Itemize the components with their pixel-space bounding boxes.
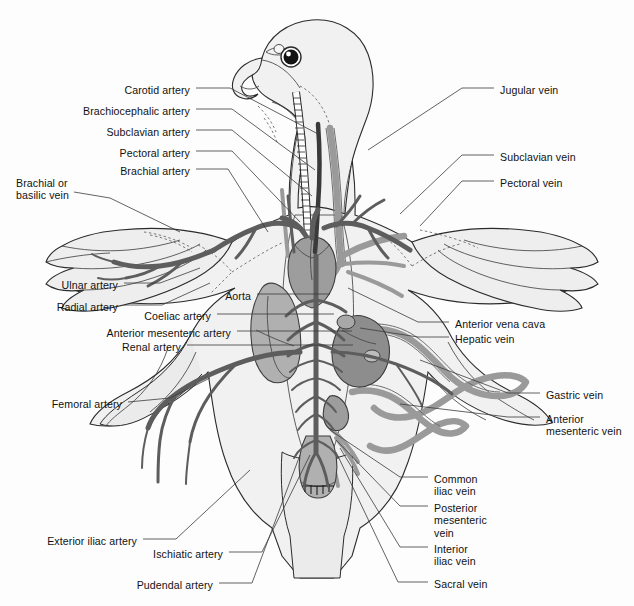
label-pectoral-vein: Pectoral vein [500,177,563,189]
label-aorta: Aorta [225,290,251,302]
label-sacral-vein: Sacral vein [434,578,488,590]
label-coeliac-artery: Coeliac artery [144,310,211,322]
label-pudendal-artery: Pudendal artery [137,579,213,591]
label-pectoral-artery: Pectoral artery [120,147,190,159]
leader-jugular-vein [368,88,494,150]
label-anterior-mesenteric-artery: Anterior mesenteric artery [107,327,231,339]
leader-subclavian-vein [400,155,494,214]
label-hepatic-vein: Hepatic vein [455,333,515,345]
label-renal-artery: Renal artery [122,341,181,353]
proventriculus [337,315,355,329]
label-anterior-vena-cava: Anterior vena cava [455,318,545,330]
label-posterior-mesenteric-vein: Posterior mesenteric vein [434,502,487,539]
label-gastric-vein: Gastric vein [546,389,603,401]
leader-brachial-or-basilic-vein [74,192,180,232]
label-brachial-or-basilic-vein: Brachial or basilic vein [16,177,69,202]
leader-brachial-artery [196,169,268,232]
diagram-page: .body-fill{fill:#f1f1f1;stroke:#2b2b2b;s… [0,0,634,606]
label-ischiatic-artery: Ischiatic artery [153,548,223,560]
label-anterior-mesenteric-vein: Anterior mesenteric vein [546,413,622,438]
label-subclavian-artery: Subclavian artery [106,126,190,138]
leader-pectoral-vein [420,181,494,226]
label-exterior-iliac-artery: Exterior iliac artery [47,535,137,547]
label-jugular-vein: Jugular vein [500,84,558,96]
label-common-iliac-vein: Common iliac vein [434,473,478,498]
label-brachiocephalic-artery: Brachiocephalic artery [83,105,190,117]
label-brachial-artery: Brachial artery [120,165,190,177]
label-radial-artery: Radial artery [57,301,118,313]
label-interior-iliac-vein: Interior iliac vein [434,543,476,568]
label-ulnar-artery: Ulnar artery [61,279,118,291]
label-femoral-artery: Femoral artery [52,398,122,410]
label-carotid-artery: Carotid artery [124,84,190,96]
label-subclavian-vein: Subclavian vein [500,151,576,163]
